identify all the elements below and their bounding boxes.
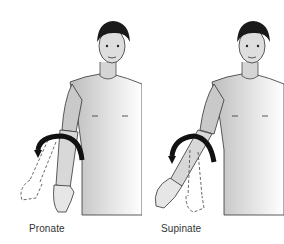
supinate-illustration: [142, 0, 284, 220]
figure-pronate: [0, 0, 142, 220]
label-pronate: Pronate: [29, 223, 65, 234]
figure-supinate: [142, 0, 284, 220]
pronate-illustration: [0, 0, 142, 220]
label-supinate: Supinate: [161, 223, 201, 234]
pronation-supination-diagram: Pronate Supinate: [0, 0, 284, 244]
